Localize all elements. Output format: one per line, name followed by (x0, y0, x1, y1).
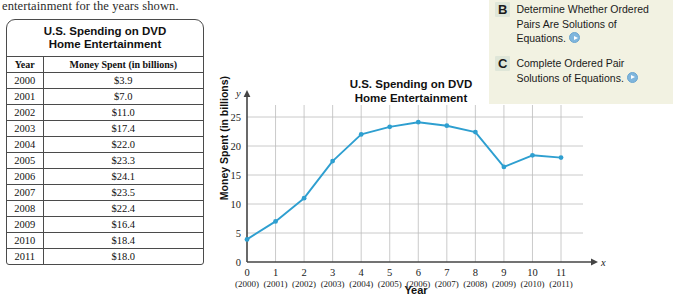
y-tick-label: 15 (231, 170, 242, 181)
data-point (302, 196, 307, 201)
x-sub-label: (2007) (435, 279, 459, 289)
table-cell-year: 2005 (7, 153, 43, 169)
x-tick-label: 0 (244, 267, 249, 278)
table-title-line2: Home Entertainment (11, 38, 199, 51)
table-cell-money: $17.4 (43, 121, 203, 137)
x-sub-label: (2001) (264, 279, 288, 289)
table-cell-money: $24.1 (43, 169, 203, 185)
table-cell-year: 2000 (7, 73, 43, 89)
table-cell-year: 2007 (7, 185, 43, 201)
table-cell-money: $16.4 (43, 217, 203, 233)
x-tick-label: 4 (359, 267, 365, 278)
data-point (359, 132, 364, 137)
data-point (473, 130, 478, 135)
x-axis-arrow (591, 259, 598, 266)
x-tick-label: 9 (501, 267, 506, 278)
table-row: 2008$22.4 (7, 201, 203, 217)
x-sub-label: (2003) (321, 279, 345, 289)
table-cell-year: 2002 (7, 105, 43, 121)
table-row: 2001$7.0 (7, 89, 203, 105)
table-row: 2000$3.9 (7, 73, 203, 89)
objective-item-b[interactable]: B Determine Whether Ordered Pairs Are So… (495, 2, 671, 46)
table-cell-year: 2009 (7, 217, 43, 233)
x-tick-label: 2 (301, 267, 306, 278)
data-polyline (247, 122, 561, 239)
x-sub-label: (2011) (549, 279, 573, 289)
y-axis-arrow (244, 90, 251, 97)
objective-b-line2: Pairs Are Solutions of (516, 18, 616, 30)
table-row: 2004$22.0 (7, 137, 203, 153)
chart-x-tick-labels: 01234567891011 (244, 267, 566, 278)
data-point (330, 159, 335, 164)
data-point (559, 155, 564, 160)
x-sub-label: (2008) (463, 279, 487, 289)
x-tick-label: 8 (473, 267, 478, 278)
table-row: 2009$16.4 (7, 217, 203, 233)
x-tick-label: 3 (330, 267, 335, 278)
table-cell-money: $23.3 (43, 153, 203, 169)
x-tick-label: 10 (527, 267, 538, 278)
y-tick-label: 0 (236, 257, 241, 268)
y-axis-letter: y (235, 88, 241, 99)
objective-text-b: Determine Whether Ordered Pairs Are Solu… (516, 2, 648, 46)
table-row: 2007$23.5 (7, 185, 203, 201)
intro-text: entertainment for the years shown. (2, 0, 262, 14)
x-tick-label: 11 (556, 267, 566, 278)
x-sub-label: (2006) (406, 279, 430, 289)
spending-table-card: U.S. Spending on DVD Home Entertainment … (6, 19, 204, 265)
table-header-row: Year Money Spent (in billions) (7, 57, 203, 73)
x-sub-label: (2010) (520, 279, 544, 289)
table-cell-money: $22.4 (43, 201, 203, 217)
table-header-year: Year (7, 57, 43, 73)
x-tick-label: 5 (387, 267, 392, 278)
objective-badge-c: C (495, 56, 510, 71)
table-row: 2003$17.4 (7, 121, 203, 137)
table-cell-year: 2006 (7, 169, 43, 185)
table-title-line1: U.S. Spending on DVD (11, 25, 199, 38)
x-sub-label: (2004) (349, 279, 373, 289)
chart-x-sub-labels: (2000)(2001)(2002)(2003)(2004)(2005)(200… (235, 279, 573, 289)
objective-c-line2: Solutions of Equations. (516, 72, 623, 84)
table-cell-year: 2004 (7, 137, 43, 153)
table-cell-money: $23.5 (43, 185, 203, 201)
table-cell-money: $3.9 (43, 73, 203, 89)
table-row: 2005$23.3 (7, 153, 203, 169)
table-cell-year: 2001 (7, 89, 43, 105)
x-sub-label: (2002) (292, 279, 316, 289)
objective-b-line1: Determine Whether Ordered (516, 3, 648, 15)
data-point (387, 124, 392, 129)
table-cell-year: 2010 (7, 233, 43, 249)
objective-b-line3: Equations. (516, 32, 566, 44)
x-tick-label: 7 (444, 267, 449, 278)
line-chart-figure: U.S. Spending on DVD Home Entertainment … (206, 72, 616, 303)
data-point (502, 164, 507, 169)
x-sub-label: (2009) (492, 279, 516, 289)
data-point (416, 120, 421, 125)
objective-item-c[interactable]: C Complete Ordered Pair Solutions of Equ… (495, 56, 671, 85)
table-header-money: Money Spent (in billions) (43, 57, 203, 73)
play-icon[interactable] (569, 32, 580, 43)
table-row: 2011$18.0 (7, 249, 203, 265)
data-point (273, 219, 278, 224)
table-body: 2000$3.92001$7.02002$11.02003$17.42004$2… (7, 73, 203, 265)
chart-data-line (247, 122, 561, 239)
y-tick-label: 10 (231, 199, 242, 210)
chart-axis-letters: yx (235, 88, 606, 268)
objective-badge-b: B (495, 2, 510, 17)
y-tick-label: 20 (231, 141, 242, 152)
data-point (444, 123, 449, 128)
table-cell-money: $11.0 (43, 105, 203, 121)
x-tick-label: 6 (416, 267, 421, 278)
chart-axes (244, 90, 598, 265)
chart-gridlines (247, 105, 583, 262)
table-title: U.S. Spending on DVD Home Entertainment (7, 20, 203, 56)
table-cell-year: 2003 (7, 121, 43, 137)
table-row: 2002$11.0 (7, 105, 203, 121)
x-axis-letter: x (600, 257, 606, 268)
play-icon[interactable] (627, 72, 638, 83)
objectives-panel: B Determine Whether Ordered Pairs Are So… (489, 0, 673, 104)
table-row: 2006$24.1 (7, 169, 203, 185)
data-point (530, 153, 535, 158)
chart-y-tick-labels: 0510152025 (231, 112, 242, 268)
table-cell-year: 2011 (7, 249, 43, 265)
